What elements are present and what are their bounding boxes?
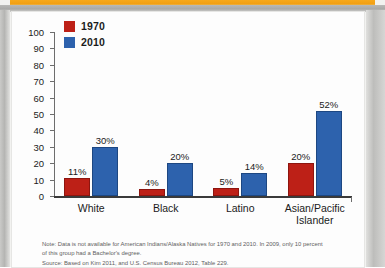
page-frame-right: [366, 10, 385, 267]
y-tick-label-80: 80: [20, 59, 44, 70]
y-tick-label-10: 10: [20, 174, 44, 185]
y-tick-mark-10: [50, 180, 54, 181]
x-category-label: Asian/Pacific Islander: [285, 202, 345, 226]
x-category-label: White: [78, 202, 105, 214]
x-axis-line: [54, 196, 352, 198]
x-axis-end-cap: [351, 197, 352, 202]
y-tick-label-90: 90: [20, 43, 44, 54]
bar-chart: 19702010 010203040506070809010011%30%Whi…: [12, 12, 364, 267]
bar-2010-Black: [167, 163, 193, 196]
y-tick-label-60: 60: [20, 92, 44, 103]
bar-1970-Black: [139, 189, 165, 196]
bar-1970-AsianPacificIslander: [288, 163, 314, 196]
note-line-1: Note: Data is not available for American…: [42, 240, 372, 249]
bar-value-label: 4%: [145, 177, 159, 188]
y-tick-mark-60: [50, 98, 54, 99]
page-frame-left: [0, 10, 10, 267]
y-tick-mark-70: [50, 81, 54, 82]
bar-value-label: 11%: [68, 166, 86, 177]
y-tick-label-30: 30: [20, 141, 44, 152]
y-tick-label-50: 50: [20, 109, 44, 120]
y-tick-mark-100: [50, 32, 54, 33]
bar-2010-AsianPacificIslander: [316, 111, 342, 196]
bar-2010-Latino: [241, 173, 267, 196]
y-tick-label-70: 70: [20, 76, 44, 87]
y-tick-mark-90: [50, 48, 54, 49]
bar-value-label: 20%: [291, 151, 310, 162]
note-line-3: Source: Based on Kim 2011, and U.S. Cens…: [42, 259, 372, 268]
x-category-label: Black: [153, 202, 179, 214]
top-grey-banner: [0, 5, 385, 12]
bar-value-label: 5%: [219, 176, 233, 187]
bar-2010-White: [92, 147, 118, 196]
figure-notes: Note: Data is not available for American…: [42, 240, 372, 268]
plot-area: 010203040506070809010011%30%White4%20%Bl…: [12, 12, 364, 267]
bar-1970-Latino: [213, 188, 239, 196]
bar-value-label: 14%: [245, 161, 264, 172]
x-category-label: Latino: [226, 202, 255, 214]
y-tick-label-0: 0: [20, 191, 44, 202]
note-line-2: of this group had a Bachelor's degree.: [42, 249, 372, 258]
bar-value-label: 20%: [170, 151, 189, 162]
y-tick-mark-40: [50, 130, 54, 131]
y-tick-mark-50: [50, 114, 54, 115]
bar-value-label: 30%: [96, 135, 115, 146]
y-tick-mark-80: [50, 65, 54, 66]
y-tick-mark-30: [50, 147, 54, 148]
bar-1970-White: [64, 178, 90, 196]
y-tick-label-100: 100: [20, 27, 44, 38]
y-axis-line: [54, 32, 55, 196]
y-tick-mark-20: [50, 163, 54, 164]
y-tick-label-40: 40: [20, 125, 44, 136]
bar-value-label: 52%: [319, 99, 338, 110]
y-tick-label-20: 20: [20, 158, 44, 169]
